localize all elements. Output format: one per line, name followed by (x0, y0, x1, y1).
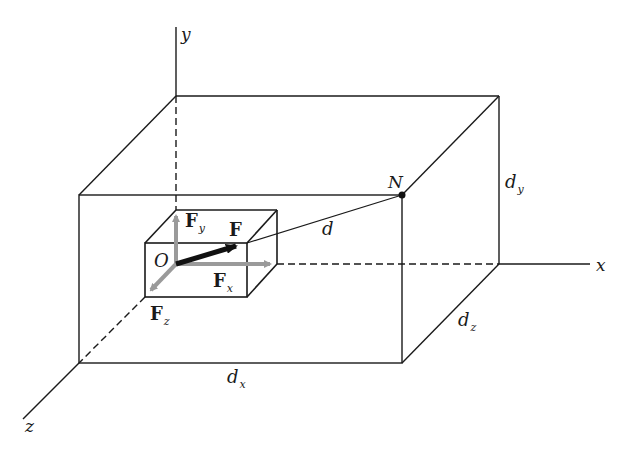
fy-label-main: F (185, 210, 198, 231)
f-resultant-label: F (229, 221, 242, 239)
dz-label-sub: z (471, 321, 477, 334)
distance-dz-label: dz (458, 311, 476, 329)
dx-label-main: d (227, 366, 239, 387)
distance-dx-label: dx (227, 368, 246, 386)
dy-label-main: d (505, 171, 517, 192)
point-n-label: N (388, 174, 403, 191)
box-bottom-right-diagonal (402, 264, 499, 363)
box-top-right-diagonal (402, 96, 499, 195)
distance-d-label: d (322, 220, 334, 238)
z-axis-label: z (25, 418, 34, 435)
fx-label: Fx (213, 272, 233, 290)
fz-label-sub: z (164, 315, 170, 328)
fx-label-main: F (213, 270, 226, 291)
small-box-bottom-right-diag (247, 264, 277, 297)
fy-label: Fy (185, 212, 205, 230)
fz-label: Fz (150, 305, 170, 323)
x-axis-label: x (596, 257, 606, 274)
fx-label-sub: x (227, 282, 233, 295)
box-top-left-diagonal (79, 96, 176, 195)
point-n-dot (399, 192, 406, 199)
z-axis-hidden (79, 297, 145, 363)
distance-dy-label: dy (505, 173, 524, 191)
force-box-diagram: y x z O N F Fy Fx Fz d dy dz dx (0, 0, 628, 452)
z-axis (23, 363, 79, 419)
diagram-canvas (0, 0, 628, 452)
f-resultant-arrow (176, 246, 236, 264)
small-box-top-left-diag (145, 210, 176, 243)
fz-label-main: F (150, 303, 163, 324)
y-axis-label: y (181, 26, 191, 43)
dy-label-sub: y (518, 183, 524, 196)
dx-label-sub: x (240, 378, 246, 391)
dz-label-main: d (458, 309, 470, 330)
fy-label-sub: y (199, 222, 205, 235)
origin-label: O (154, 252, 169, 270)
